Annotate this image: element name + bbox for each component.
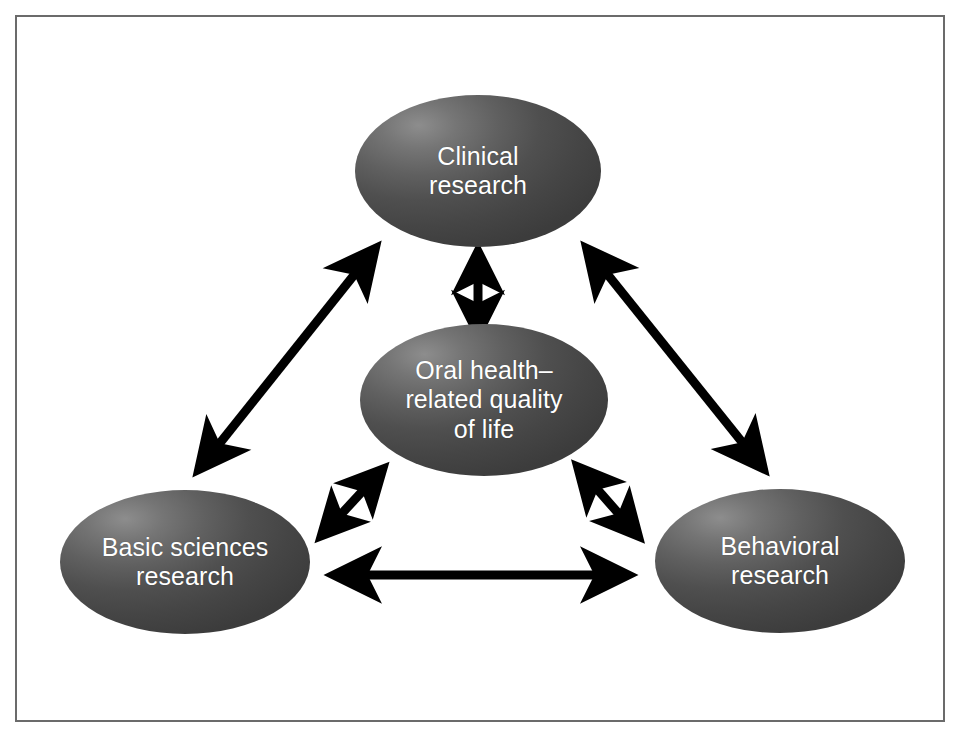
node-center-label: Oral health– related quality of life — [395, 356, 572, 445]
arrow-basic-clinical — [212, 265, 362, 453]
node-oral-health-quality-of-life: Oral health– related quality of life — [360, 324, 608, 476]
node-clinical-research: Clinical research — [355, 95, 601, 247]
node-behavioral-line-2: research — [731, 561, 829, 589]
node-behavioral-label: Behavioral research — [710, 532, 849, 591]
figure-root: Clinical research Oral health– related q… — [0, 0, 956, 736]
node-center-line-3: of life — [454, 415, 514, 443]
node-center-line-2: related quality — [405, 385, 562, 413]
node-center-line-1: Oral health– — [415, 356, 552, 384]
node-behavioral-line-1: Behavioral — [720, 532, 839, 560]
node-clinical-line-2: research — [429, 171, 527, 199]
arrow-behavioral-center — [590, 481, 626, 522]
node-basic-sciences-label: Basic sciences research — [92, 533, 279, 592]
arrow-basic-center — [334, 483, 370, 522]
node-clinical-research-label: Clinical research — [419, 142, 537, 201]
node-basic-sciences-research: Basic sciences research — [60, 490, 310, 634]
arrow-clinical-behavioral — [600, 265, 750, 452]
node-basic-line-1: Basic sciences — [102, 533, 269, 561]
node-clinical-line-1: Clinical — [437, 142, 518, 170]
node-behavioral-research: Behavioral research — [655, 489, 905, 633]
node-basic-line-2: research — [136, 562, 234, 590]
